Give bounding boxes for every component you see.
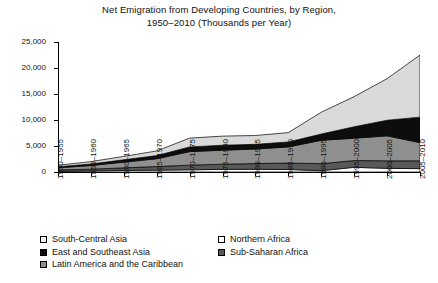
- legend-swatch-icon: [218, 236, 225, 243]
- x-axis-tick-label-text: 1955–1960: [90, 139, 98, 179]
- legend-item-label: Northern Africa: [230, 235, 290, 244]
- y-axis-tick-label: 15,000: [0, 90, 46, 98]
- y-axis-tick-label: 0: [0, 168, 46, 176]
- x-axis-tick-label-text: 1985–1990: [287, 139, 295, 179]
- legend-item[interactable]: Northern Africa: [218, 234, 308, 246]
- legend-swatch-icon: [218, 249, 225, 256]
- legend-swatch-icon: [40, 249, 47, 256]
- x-axis-tick-label-text: 1990–1995: [320, 139, 328, 179]
- x-axis-tick-label-text: 1960–1965: [123, 139, 131, 179]
- x-axis-tick-label-text: 1965–1970: [156, 139, 164, 179]
- legend-column-right: Northern AfricaSub-Saharan Africa: [218, 234, 308, 259]
- chart-root: Net Emigration from Developing Countries…: [0, 0, 438, 283]
- legend-swatch-icon: [40, 236, 47, 243]
- plot-area: [58, 42, 420, 172]
- x-axis-tick-label-text: 1980–1985: [254, 139, 262, 179]
- legend-item[interactable]: South-Central Asia: [40, 234, 183, 246]
- legend-item-label: Latin America and the Caribbean: [52, 260, 183, 269]
- x-axis-tick-label-text: 1950–1955: [57, 139, 65, 179]
- x-axis-tick-label-text: 1995–2000: [353, 139, 361, 179]
- chart-title-line-1: Net Emigration from Developing Countries…: [0, 4, 438, 17]
- x-axis-tick-label-text: 1970–1975: [189, 139, 197, 179]
- stacked-area-series: [58, 42, 420, 173]
- x-axis-tick-label-text: 2000–2005: [386, 139, 394, 179]
- legend-item-label: East and Southeast Asia: [52, 248, 150, 257]
- y-axis-tick-label: 5,000: [0, 142, 46, 150]
- legend-item[interactable]: Sub-Saharan Africa: [218, 247, 308, 259]
- y-axis-tick-label: 25,000: [0, 38, 46, 46]
- y-axis-tick-label: 10,000: [0, 116, 46, 124]
- legend-item[interactable]: East and Southeast Asia: [40, 247, 183, 259]
- x-axis-tick-label-text: 2005–2010: [419, 139, 427, 179]
- x-axis-line: [58, 172, 421, 173]
- legend-item-label: South-Central Asia: [52, 235, 127, 244]
- chart-title: Net Emigration from Developing Countries…: [0, 4, 438, 29]
- legend-item[interactable]: Latin America and the Caribbean: [40, 259, 183, 271]
- x-axis-tick-label-text: 1975–1980: [222, 139, 230, 179]
- legend-item-label: Sub-Saharan Africa: [230, 248, 308, 257]
- legend-column-left: South-Central AsiaEast and Southeast Asi…: [40, 234, 183, 272]
- y-axis-tick-label: 20,000: [0, 64, 46, 72]
- legend-swatch-icon: [40, 261, 47, 268]
- chart-title-line-2: 1950–2010 (Thousands per Year): [0, 17, 438, 30]
